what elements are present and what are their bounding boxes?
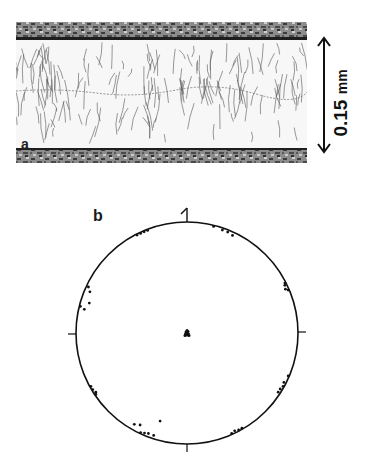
pole-point: [90, 385, 93, 388]
micrograph-panel-a: [16, 22, 307, 163]
pole-point: [230, 432, 233, 435]
pole-point: [287, 289, 290, 292]
reference-flag-mark: [181, 208, 187, 214]
pole-point: [133, 423, 136, 426]
pole-point: [136, 234, 139, 237]
scale-bar-unit: mm: [334, 69, 350, 94]
pole-point: [233, 429, 236, 432]
pole-point: [143, 230, 146, 233]
scale-bar-value: 0.15: [330, 100, 351, 137]
pole-point: [282, 385, 285, 388]
pole-point: [212, 225, 215, 228]
pole-figure-panel-b: [0, 180, 369, 456]
center-pole-point: [186, 329, 189, 332]
top-interface-line: [16, 37, 307, 40]
pole-point: [283, 284, 286, 287]
pole-point: [152, 434, 155, 437]
pole-point: [231, 234, 234, 237]
center-pole-point: [184, 334, 187, 337]
micrograph-background: [16, 22, 307, 163]
pole-point: [95, 393, 98, 396]
pole-point: [283, 381, 286, 384]
bottom-substrate-band: [16, 150, 307, 163]
pole-point: [287, 375, 290, 378]
pole-point: [83, 308, 86, 311]
pole-point: [241, 427, 244, 430]
pole-point: [79, 305, 82, 308]
top-substrate-band: [16, 22, 307, 39]
pole-point: [139, 424, 142, 427]
pole-point: [139, 431, 142, 434]
pole-point: [221, 229, 224, 232]
panel-label-b: b: [93, 207, 103, 225]
pole-point: [147, 432, 150, 435]
pole-point: [91, 388, 94, 391]
pole-point: [284, 288, 287, 291]
center-pole-point: [188, 334, 191, 337]
pole-point: [139, 232, 142, 235]
pole-point: [277, 391, 280, 394]
pole-point: [88, 302, 91, 305]
pole-point: [143, 432, 146, 435]
pole-point: [279, 388, 282, 391]
pole-point: [226, 231, 229, 234]
pole-point: [159, 420, 162, 423]
panel-label-a: a: [21, 136, 29, 152]
pole-point: [146, 229, 149, 232]
pole-point: [87, 286, 90, 289]
pole-point: [89, 290, 92, 293]
pole-points: [79, 225, 290, 437]
scale-bar-label: 0.15 mm: [326, 53, 356, 153]
pole-point: [237, 429, 240, 432]
